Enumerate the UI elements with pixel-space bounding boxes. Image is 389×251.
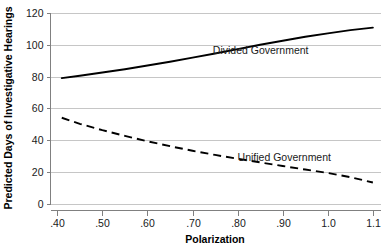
chart-container: 020406080100120 .40.50.60.70.80.901.01.1… <box>0 0 389 251</box>
y-tick-label: 100 <box>26 39 44 51</box>
x-tick-label: .40 <box>50 217 65 229</box>
series-label-divided-government: Divided Government <box>213 44 309 56</box>
x-tick-label: .90 <box>276 217 291 229</box>
y-tick-label: 120 <box>26 7 44 19</box>
x-tick-label: 1.0 <box>321 217 336 229</box>
y-tick-labels: 020406080100120 <box>26 7 44 210</box>
chart-svg: 020406080100120 .40.50.60.70.80.901.01.1… <box>0 0 389 251</box>
series-label-unified-government: Unified Government <box>238 151 331 163</box>
y-tick-label: 20 <box>32 166 44 178</box>
y-tick-label: 80 <box>32 71 44 83</box>
x-tick-label: 1.1 <box>366 217 381 229</box>
y-tick-label: 40 <box>32 134 44 146</box>
y-tick-label: 60 <box>32 102 44 114</box>
y-tick-label: 0 <box>38 198 44 210</box>
x-tick-label: .70 <box>186 217 201 229</box>
gridlines <box>51 14 382 205</box>
y-axis-title: Predicted Days of Investigative Hearings <box>2 6 14 209</box>
x-tick-label: .60 <box>140 217 155 229</box>
x-tick-label: .80 <box>231 217 246 229</box>
x-tick-label: .50 <box>95 217 110 229</box>
x-axis-title: Polarization <box>185 233 245 245</box>
x-tick-labels: .40.50.60.70.80.901.01.1 <box>50 217 381 229</box>
